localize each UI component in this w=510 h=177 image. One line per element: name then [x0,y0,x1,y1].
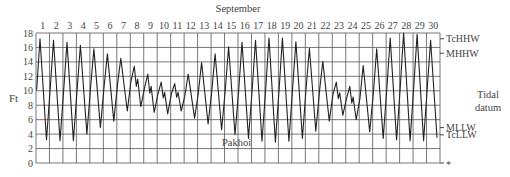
svg-text:10: 10 [159,20,169,31]
svg-text:15: 15 [226,20,236,31]
svg-text:16: 16 [240,20,250,31]
svg-text:14: 14 [23,56,33,67]
svg-text:21: 21 [307,20,317,31]
svg-text:TcLLW: TcLLW [446,129,477,140]
svg-text:26: 26 [374,20,384,31]
svg-text:22: 22 [321,20,331,31]
svg-text:2: 2 [28,143,33,154]
svg-text:7: 7 [121,20,126,31]
svg-text:17: 17 [253,20,263,31]
chart-title: September [216,3,261,14]
svg-text:MHHW: MHHW [446,48,479,59]
y-tick-labels: 024681012141618 [23,28,33,169]
svg-text:4: 4 [81,20,86,31]
svg-text:16: 16 [23,42,33,53]
svg-text:25: 25 [361,20,371,31]
svg-text:29: 29 [415,20,425,31]
svg-text:TcHHW: TcHHW [446,33,480,44]
svg-text:2: 2 [54,20,59,31]
svg-text:5: 5 [94,20,99,31]
svg-text:12: 12 [186,20,196,31]
svg-text:19: 19 [280,20,290,31]
svg-text:30: 30 [428,20,438,31]
svg-text:6: 6 [28,114,33,125]
svg-text:18: 18 [23,28,33,39]
svg-text:27: 27 [388,20,398,31]
svg-text:1: 1 [40,20,45,31]
svg-text:4: 4 [28,129,33,140]
svg-text:11: 11 [173,20,183,31]
svg-text:10: 10 [23,85,33,96]
svg-text:0: 0 [28,158,33,169]
svg-text:8: 8 [28,100,33,111]
svg-text:23: 23 [334,20,344,31]
svg-text:12: 12 [23,71,33,82]
svg-text:28: 28 [401,20,411,31]
svg-text:8: 8 [135,20,140,31]
tide-curve [36,33,437,142]
y-axis-label: Ft [9,92,18,104]
svg-text:18: 18 [267,20,277,31]
day-tick-labels: 1234567891011121314151617181920212223242… [40,20,438,31]
svg-text:*: * [446,159,451,170]
tide-chart: September 123456789101112131415161718192… [0,0,510,177]
svg-text:24: 24 [347,20,357,31]
tidal-datum-title: Tidaldatum [468,88,508,114]
svg-text:13: 13 [199,20,209,31]
svg-text:14: 14 [213,20,223,31]
station-label-pakhoi: Pakhoi [222,137,251,148]
svg-text:6: 6 [108,20,113,31]
svg-text:9: 9 [148,20,153,31]
svg-text:20: 20 [294,20,304,31]
svg-text:3: 3 [67,20,72,31]
